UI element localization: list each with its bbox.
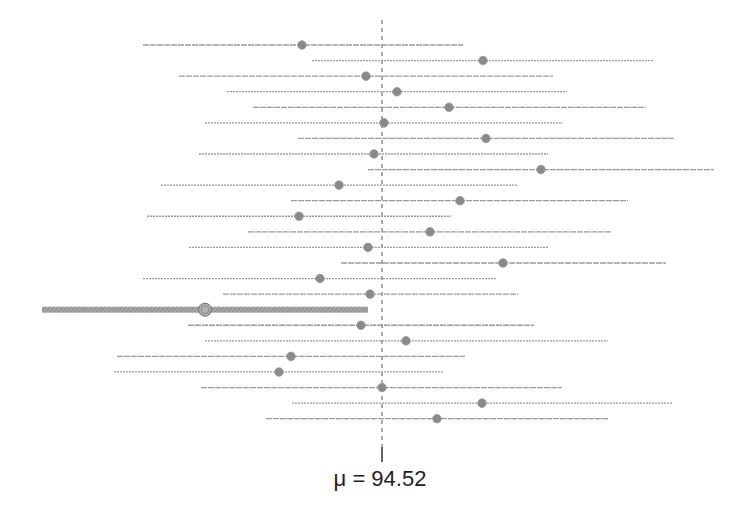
confidence-interval-chart [0,0,744,516]
interval-row [199,150,548,159]
interval-row [291,196,628,205]
sample-mean-dot [478,399,487,408]
interval-row-missed [42,303,368,316]
interval-row [189,243,548,252]
interval-row [161,181,517,190]
sample-mean-dot [445,103,454,112]
interval-row [223,290,518,299]
interval-row [266,414,609,423]
sample-mean-dot [364,243,373,252]
sample-mean-dot [362,72,371,81]
mean-label-text: μ = 94.52 [334,466,427,491]
interval-row [201,383,562,392]
sample-mean-dot [298,41,307,50]
interval-row [143,274,497,283]
interval-row [179,72,553,81]
interval-row [292,399,672,408]
sample-mean-dot [366,290,375,299]
interval-group [42,41,714,423]
sample-mean-dot [499,259,508,268]
sample-mean-ring [199,303,212,316]
sample-mean-dot [537,165,546,174]
sample-mean-dot [335,181,344,190]
interval-row [188,321,534,330]
interval-row [205,119,563,128]
sample-mean-dot [433,414,442,423]
sample-mean-dot [393,87,402,96]
interval-row [114,368,444,377]
interval-row [248,228,611,237]
sample-mean-dot [482,134,491,143]
interval-row [143,41,463,50]
sample-mean-dot [479,56,488,65]
interval-row [147,212,451,221]
sample-mean-dot [316,274,325,283]
interval-row [298,134,674,143]
sample-mean-dot [295,212,304,221]
interval-row [312,56,654,65]
sample-mean-dot [402,337,411,346]
interval-row [205,337,608,346]
sample-mean-dot [380,119,389,128]
sample-mean-dot [287,352,296,361]
interval-row [253,103,646,112]
interval-row [368,165,714,174]
sample-mean-dot [357,321,366,330]
interval-row [227,87,567,96]
interval-row [341,259,666,268]
sample-mean-dot [370,150,379,159]
sample-mean-dot [456,196,465,205]
mean-label: μ = 94.52 [0,466,744,492]
sample-mean-dot [275,368,284,377]
sample-mean-dot [378,383,387,392]
interval-row [117,352,465,361]
sample-mean-dot [426,228,435,237]
